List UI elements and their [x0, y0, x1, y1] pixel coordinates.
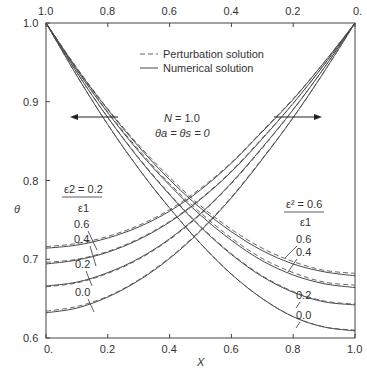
left-curve-label: 0.4 — [74, 233, 89, 245]
right-group-label-denominator: ε1 — [300, 216, 311, 228]
y-tick-label: 0.9 — [23, 96, 38, 108]
right-arrow-icon — [274, 114, 322, 120]
x-tick-label-bottom: 0.2 — [100, 343, 115, 355]
legend-numerical-label: Numerical solution — [163, 62, 253, 74]
y-axis-label: θ — [14, 203, 20, 215]
right-curve-label: 0.4 — [296, 246, 311, 258]
left-curve-label: 0.6 — [74, 218, 89, 230]
chart: 0.1.00.20.80.40.60.60.40.80.21.00.0.60.7… — [0, 0, 367, 374]
left-arrow-icon — [70, 114, 118, 120]
y-tick-label: 1.0 — [23, 17, 38, 29]
x-tick-label-top: 0.4 — [223, 5, 238, 17]
x-tick-label-bottom: 1.0 — [347, 343, 362, 355]
y-tick-label: 0.8 — [23, 175, 38, 187]
y-tick-label: 0.6 — [23, 332, 38, 344]
y-tick-label: 0.7 — [23, 253, 38, 265]
left-curve-label: 0.2 — [75, 258, 90, 270]
x-tick-label-top: 0. — [353, 5, 362, 17]
right-curve-label: 0.0 — [296, 309, 311, 321]
n-parameter: N = 1.0 — [164, 112, 200, 124]
x-tick-label-bottom: 0.8 — [285, 343, 300, 355]
left-group-label-numerator: ε2 = 0.2 — [64, 183, 103, 195]
x-tick-label-top: 0.6 — [162, 5, 177, 17]
theta-parameter: θa = θs = 0 — [155, 127, 211, 139]
legend-perturbation-label: Perturbation solution — [163, 48, 264, 60]
right-curve-label: 0.2 — [296, 289, 311, 301]
x-tick-label-top: 1.0 — [38, 5, 53, 17]
legend: Perturbation solution Numerical solution — [140, 48, 264, 74]
left-group-label-denominator: ε1 — [78, 202, 89, 214]
right-curve-label: 0.6 — [296, 233, 311, 245]
x-tick-label-bottom: 0.6 — [223, 343, 238, 355]
x-tick-label-top: 0.2 — [285, 5, 300, 17]
x-tick-label-top: 0.8 — [100, 5, 115, 17]
left-curve-labels: 0.6 0.4 0.2 0.0 — [74, 218, 97, 312]
x-axis-label: X — [196, 356, 205, 368]
left-curve-label: 0.0 — [75, 286, 90, 298]
x-tick-label-bottom: 0. — [44, 343, 53, 355]
x-tick-label-bottom: 0.4 — [162, 343, 177, 355]
right-curve-labels: 0.6 0.4 0.2 0.0 — [285, 233, 311, 328]
right-group-label-numerator: ε² = 0.6 — [286, 198, 322, 210]
